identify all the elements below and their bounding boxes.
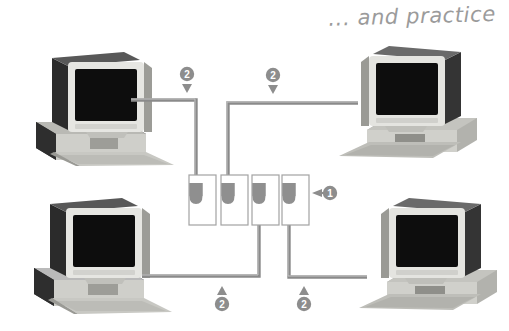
callout-1-number: 1	[327, 188, 333, 199]
callout-arrow-down-icon	[268, 85, 278, 94]
callout-arrow-down-icon	[182, 84, 192, 93]
callout-arrow-up-icon	[217, 286, 227, 295]
callout-2-topright[interactable]: 2	[266, 68, 280, 94]
callout-arrow-up-icon	[299, 286, 309, 295]
patch-panel[interactable]	[189, 175, 309, 225]
cable-overlay: 1 2 2 2 2	[0, 0, 509, 331]
cable-top-right	[227, 102, 358, 178]
hub-port-1[interactable]	[189, 175, 216, 225]
hub-port-3[interactable]	[252, 175, 279, 225]
cable-top-left	[131, 99, 196, 178]
callout-2-botleft[interactable]: 2	[215, 286, 229, 311]
callout-2-topright-number: 2	[270, 70, 276, 81]
callout-2-topleft[interactable]: 2	[180, 67, 194, 93]
hub-port-4[interactable]	[282, 175, 309, 225]
callout-2-topleft-number: 2	[184, 69, 190, 80]
callout-2-botright[interactable]: 2	[297, 286, 311, 311]
callout-2-botleft-number: 2	[219, 299, 225, 310]
callout-1[interactable]: 1	[312, 186, 337, 200]
callout-2-botright-number: 2	[301, 299, 307, 310]
network-diagram: ... and practice	[0, 0, 509, 331]
hub-port-2[interactable]	[221, 175, 248, 225]
